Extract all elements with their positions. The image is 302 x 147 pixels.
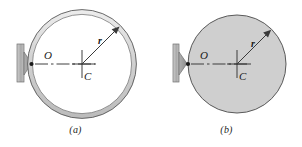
wall-plate-icon <box>17 44 24 82</box>
wall-plate-icon <box>173 44 179 82</box>
label-center-c: C <box>239 70 247 82</box>
panel-a-caption: (a) <box>0 124 151 135</box>
wall-bracket-b <box>173 44 187 82</box>
figure-panel-a: O C r (a) <box>0 0 151 147</box>
pivot-point-o <box>29 62 33 66</box>
pivot-point-o <box>186 62 190 66</box>
physics-figure-ring-and-disk: O C r (a) <box>0 0 302 147</box>
label-center-c: C <box>84 70 92 82</box>
bracket-gusset-icon <box>179 52 187 75</box>
panel-b-caption: (b) <box>151 124 302 135</box>
label-radius-r: r <box>251 38 255 49</box>
label-pivot-o: O <box>200 49 208 61</box>
figure-panel-b: O C r (b) <box>151 0 302 147</box>
label-radius-r: r <box>98 35 102 46</box>
label-pivot-o: O <box>44 49 52 61</box>
